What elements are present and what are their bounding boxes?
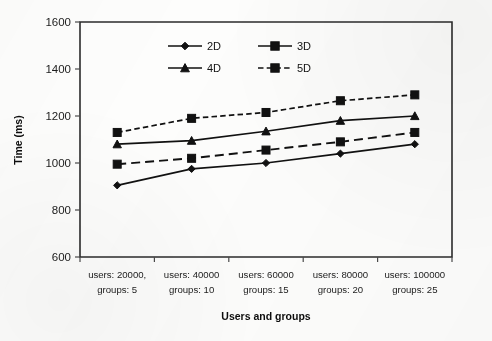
data-point-marker [262,108,270,116]
data-point-marker [271,42,279,50]
data-point-marker [113,160,121,168]
data-point-marker [188,165,195,172]
data-point-marker [411,91,419,99]
x-tick-label: groups: 20 [318,284,363,295]
y-tick-label: 800 [52,204,71,216]
data-point-marker [411,128,419,136]
legend-label: 3D [297,40,311,52]
data-point-marker [188,114,196,122]
data-point-marker [336,97,344,105]
x-tick-label: groups: 15 [243,284,288,295]
line-chart: 1600140012001000800600 users: 20000,grou… [0,0,492,341]
legend-label: 5D [297,62,311,74]
y-tick-label: 1600 [45,16,71,28]
x-tick-label: groups: 10 [169,284,214,295]
y-tick-label: 1000 [45,157,71,169]
x-axis-labels: users: 20000,groups: 5users: 40000groups… [88,269,445,295]
legend-label: 4D [207,62,221,74]
series-4d [113,112,419,148]
legend-label: 2D [207,40,221,52]
legend-item-3d: 3D [258,40,311,52]
axis-frame [80,22,452,257]
data-point-marker [114,182,121,189]
y-tick-label: 600 [52,251,71,263]
x-tick-label: groups: 5 [97,284,137,295]
y-axis-title: Time (ms) [12,115,24,164]
data-point-marker [337,150,344,157]
data-point-marker [411,141,418,148]
y-tick-label: 1200 [45,110,71,122]
data-point-marker [113,128,121,136]
x-tick-label: users: 100000 [384,269,445,280]
plot-frame [80,22,452,257]
series-layer [113,91,419,189]
chart-figure: 1600140012001000800600 users: 20000,grou… [0,0,492,341]
x-tick-label: users: 40000 [164,269,219,280]
x-tick-label: users: 60000 [238,269,293,280]
data-point-marker [181,42,189,50]
x-tick-label: users: 20000, [88,269,146,280]
y-axis: 1600140012001000800600 [45,16,80,263]
legend-item-5d: 5D [258,62,311,74]
legend-item-2d: 2D [168,40,221,52]
data-point-marker [262,146,270,154]
data-point-marker [336,138,344,146]
legend-item-4d: 4D [168,62,221,74]
x-axis-title: Users and groups [221,310,310,322]
x-tick-label: users: 80000 [313,269,368,280]
x-tick-label: groups: 25 [392,284,437,295]
data-point-marker [262,159,269,166]
data-point-marker [188,154,196,162]
y-tick-label: 1400 [45,63,71,75]
chart-legend: 2D3D4D5D [168,40,311,74]
data-point-marker [271,64,279,72]
